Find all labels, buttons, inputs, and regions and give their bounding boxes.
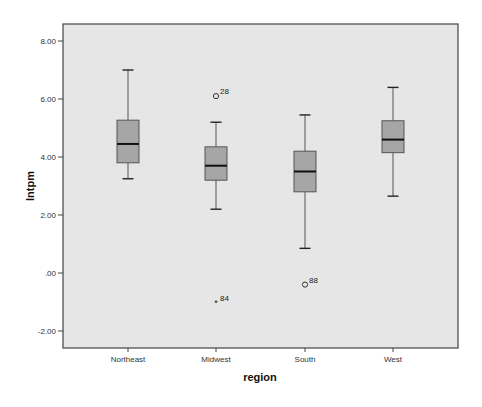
outlier-label: 84: [220, 294, 229, 303]
y-tick-label: 4.00: [40, 153, 56, 162]
x-axis: NortheastMidwestSouthWest: [111, 348, 403, 364]
plot-area: [63, 24, 458, 348]
y-tick-label: 8.00: [40, 37, 56, 46]
y-tick-label: 2.00: [40, 211, 56, 220]
x-tick-label-south: South: [295, 355, 316, 364]
x-axis-title: region: [243, 371, 277, 383]
outlier-label: 28: [220, 87, 229, 96]
iqr-box: [382, 121, 404, 153]
y-tick-label: -2.00: [38, 327, 57, 336]
outlier-label: 88: [309, 276, 318, 285]
extreme-star-icon: *: [214, 298, 218, 308]
x-tick-label-northeast: Northeast: [111, 355, 146, 364]
y-tick-label: 6.00: [40, 95, 56, 104]
iqr-box: [117, 120, 139, 163]
iqr-box: [205, 147, 227, 180]
y-axis-title: lntpm: [24, 171, 36, 201]
x-tick-label-west: West: [384, 355, 403, 364]
y-tick-label: .00: [45, 269, 57, 278]
boxplot-chart: 8.006.004.002.00.00-2.00 NortheastMidwes…: [0, 0, 482, 407]
x-tick-label-midwest: Midwest: [201, 355, 231, 364]
y-axis: 8.006.004.002.00.00-2.00: [38, 37, 63, 336]
